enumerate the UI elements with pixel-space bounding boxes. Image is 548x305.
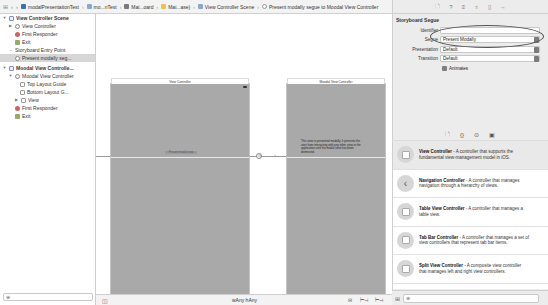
breadcrumb-base[interactable]: Mai...ase) <box>161 4 190 10</box>
transition-select[interactable]: Default <box>440 55 540 62</box>
breadcrumb-separator: › <box>157 4 159 10</box>
view-controller-scene-frame[interactable]: View Controller Present modal view <box>110 83 250 297</box>
help-inspector-tab[interactable]: ? <box>449 4 452 10</box>
view-icon <box>21 98 26 103</box>
transition-row: TransitionDefault <box>393 55 548 63</box>
library-item-tab-bar-controller[interactable]: Tab Bar Controller - A controller that m… <box>393 227 548 256</box>
filter-icon: ⊕ <box>6 294 10 300</box>
view-controller-icon <box>15 24 20 29</box>
outline-item-storyboard-entry-point[interactable]: →Storyboard Entry Point <box>0 46 95 54</box>
scene-icon <box>9 66 14 71</box>
outline-item-moodal-view-controller[interactable]: ▼Moodal View Controller <box>0 72 95 80</box>
checkbox-checked-icon <box>442 66 447 71</box>
split-view-controller-icon <box>397 260 414 277</box>
breadcrumb-project[interactable]: modalPresentationTest <box>21 4 79 10</box>
outline-item-present-modally-segue[interactable]: Present modally seg... <box>0 54 95 62</box>
file-inspector-tab[interactable]: 🗋 <box>435 2 440 12</box>
stack-button[interactable]: ⊟ <box>348 297 352 303</box>
view-controller-icon <box>397 146 414 163</box>
inspector-tabs: 🗋 ? ≡ ♆ ▯ → <box>393 0 548 14</box>
outline-item-exit-2[interactable]: Exit <box>0 112 95 120</box>
library-item-view-controller[interactable]: View Controller - A controller that supp… <box>393 141 548 170</box>
library-footer: ⊞ ⊕ <box>392 290 548 305</box>
layout-guide-icon <box>20 90 25 95</box>
canvas-bottom-bar: ◫ wAny hAny ⊟ ⊢⊣ ⊢⊣ <box>96 294 392 305</box>
breadcrumb-separator: › <box>120 4 122 10</box>
project-icon <box>21 4 26 9</box>
present-modal-button[interactable]: Present modal view <box>165 151 197 154</box>
moodal-view-controller-title: Moodal View Controller <box>287 78 385 84</box>
inspector-section-title: Storyboard Segue <box>393 14 548 26</box>
back-button[interactable]: ‹ <box>11 4 13 10</box>
breadcrumb-separator: › <box>193 4 195 10</box>
moodal-view-controller-scene-frame[interactable]: Moodal View Controller This view is pres… <box>286 83 386 297</box>
identity-inspector-tab[interactable]: ≡ <box>462 4 466 10</box>
disclosure-triangle-icon[interactable]: ▼ <box>2 14 7 22</box>
exit-icon <box>15 114 20 119</box>
segue-icon[interactable]: ⊙ <box>256 153 262 159</box>
object-library-tab[interactable]: ⊙ <box>474 131 479 138</box>
breadcrumb-segue[interactable]: Present modally segue to Moodal View Con… <box>262 4 378 10</box>
first-responder-icon <box>15 32 20 37</box>
disclosure-triangle-icon[interactable]: ▼ <box>8 72 13 80</box>
storyboard-canvas[interactable]: → View Controller Present modal view ⊙ ›… <box>96 14 392 294</box>
library-filter-field[interactable]: ⊕ <box>403 294 539 303</box>
related-items-icon[interactable]: ⊞ <box>3 3 8 10</box>
disclosure-triangle-icon[interactable]: ▶ <box>8 22 13 30</box>
library-item-navigation-controller[interactable]: ‹Navigation Controller - A controller th… <box>393 170 548 199</box>
breadcrumb-separator: › <box>82 4 84 10</box>
highlight-annotation-oval <box>430 25 544 48</box>
segue-icon <box>15 56 20 61</box>
document-outline: ▼View Controller Scene ▶View Controller … <box>0 14 96 305</box>
forward-button[interactable]: › <box>16 4 18 10</box>
outline-item-top-layout-guide[interactable]: Top Layout Guide <box>0 80 95 88</box>
stepper-icon <box>534 56 539 62</box>
segue-icon <box>262 4 267 9</box>
connections-inspector-tab[interactable]: → <box>500 4 506 10</box>
align-button[interactable]: ⊢⊣ <box>360 297 368 303</box>
layout-guide-icon <box>20 82 25 87</box>
outline-item-view-controller-scene[interactable]: ▼View Controller Scene <box>0 14 95 22</box>
outline-item-bottom-layout-guide[interactable]: Bottom Layout G... <box>0 88 95 96</box>
size-inspector-tab[interactable]: ▯ <box>488 3 491 10</box>
outline-filter-field[interactable]: ⊕ <box>3 293 93 301</box>
library-tabs: 🗋 {} ⊙ ▣ <box>392 129 548 141</box>
outline-toggle-button[interactable]: ◫ <box>102 297 108 304</box>
storyboard-icon <box>124 4 129 9</box>
library-item-table-view-controller[interactable]: Table View Controller - A controller tha… <box>393 198 548 227</box>
first-responder-icon <box>15 106 20 111</box>
table-view-controller-icon <box>397 203 414 220</box>
view-controller-icon <box>15 74 20 79</box>
pin-button[interactable]: ⊢⊣ <box>375 297 383 303</box>
navigation-controller-icon: ‹ <box>397 175 414 192</box>
outline-item-view[interactable]: ▶View <box>0 96 95 104</box>
modal-description-label: This view is presented modally. It preve… <box>301 140 361 154</box>
entry-arrow-icon: → <box>8 46 13 54</box>
jump-bar: ⊞ ‹ › modalPresentationTest › mo...nTest… <box>0 0 392 14</box>
outline-item-moodal-scene[interactable]: ▼Moodal View Controlle... <box>0 64 95 72</box>
grid-view-toggle-icon[interactable]: ⊞ <box>395 295 400 302</box>
disclosure-triangle-icon[interactable]: ▼ <box>2 64 7 72</box>
scene-icon <box>198 4 203 9</box>
tab-bar-controller-icon <box>397 232 414 249</box>
outline-item-view-controller[interactable]: ▶View Controller <box>0 22 95 30</box>
exit-icon <box>15 40 20 45</box>
library-item-split-view-controller[interactable]: Split View Controller - A composite view… <box>393 255 548 284</box>
breadcrumb-scene[interactable]: View Controller Scene <box>198 4 254 10</box>
stepper-icon <box>534 47 539 53</box>
size-class-control[interactable]: wAny hAny <box>232 297 257 303</box>
code-snippet-library-tab[interactable]: {} <box>460 132 464 138</box>
animates-checkbox[interactable]: Animates <box>442 64 548 72</box>
breadcrumb-storyboard[interactable]: Mai...oard <box>124 4 153 10</box>
outline-item-exit[interactable]: Exit <box>0 38 95 46</box>
object-library-list: View Controller - A controller that supp… <box>393 141 548 289</box>
outline-item-first-responder-2[interactable]: First Responder <box>0 104 95 112</box>
attributes-inspector-tab[interactable]: ♆ <box>474 4 479 10</box>
media-library-tab[interactable]: ▣ <box>489 131 495 138</box>
filter-icon: ⊕ <box>406 295 410 301</box>
outline-item-first-responder[interactable]: First Responder <box>0 30 95 38</box>
file-template-library-tab[interactable]: 🗋 <box>445 130 450 140</box>
battery-icon <box>243 86 247 88</box>
breadcrumb-folder[interactable]: mo...nTest <box>87 4 117 10</box>
disclosure-triangle-icon[interactable]: ▶ <box>14 96 19 104</box>
